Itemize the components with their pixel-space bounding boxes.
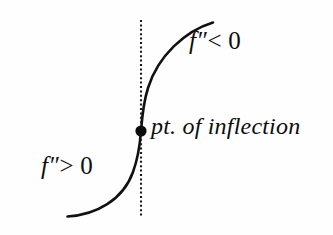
concave-down-relation: < 0 (207, 27, 241, 54)
inflection-point-marker (135, 125, 146, 136)
concave-up-label: f″> 0 (41, 152, 93, 180)
inflection-point-figure: f″< 0 f″> 0 pt. of inflection (0, 0, 333, 235)
marker-group (135, 125, 146, 136)
concave-up-relation: > 0 (59, 152, 93, 179)
concave-up-prime: ″ (48, 152, 58, 179)
concave-down-prime: ″ (196, 27, 206, 54)
concave-down-label: f″< 0 (189, 27, 241, 55)
inflection-point-label: pt. of inflection (151, 113, 300, 140)
